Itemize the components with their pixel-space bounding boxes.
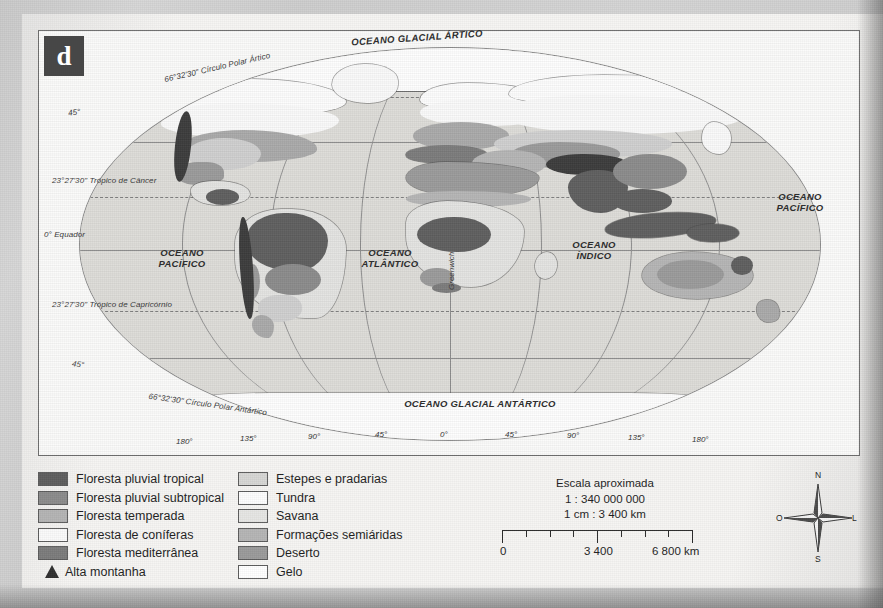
scale-bar-label: 0 xyxy=(500,545,506,557)
landmass-congo-rainforest xyxy=(417,217,491,252)
ocean-label: OCEANO PACÍFICO xyxy=(776,192,823,214)
scale-bar-tick xyxy=(573,530,574,537)
ocean-label: OCEANO GLACIAL ANTÁRTICO xyxy=(404,399,556,410)
landmass-japan xyxy=(702,122,732,153)
legend-swatch xyxy=(38,528,68,542)
scale-bar-labels: 03 4006 800 km xyxy=(500,545,696,561)
longitude-tick-label: 45° xyxy=(505,430,517,439)
ocean-label: OCEANO ÍNDICO xyxy=(572,240,616,262)
scale-ratio: 1 : 340 000 000 xyxy=(500,492,710,508)
legend-item-label: Tundra xyxy=(276,491,315,505)
legend-swatch xyxy=(238,509,268,523)
compass-south-label: S xyxy=(815,554,821,564)
legend-item: Tundra xyxy=(238,489,402,508)
scale-bar-tick xyxy=(550,530,551,537)
ocean-label: OCEANO ATLÂNTICO xyxy=(362,248,419,270)
legend-item-label: Deserto xyxy=(276,546,320,560)
graticule-label: 23°27'30" Trópico de Câncer xyxy=(52,176,156,185)
scale-bar-label: 6 800 km xyxy=(652,545,699,557)
legend-swatch xyxy=(38,472,68,486)
longitude-tick-label: 90° xyxy=(308,432,320,441)
world-globe xyxy=(79,47,821,441)
legend-item-label: Floresta pluvial tropical xyxy=(76,472,204,486)
longitude-tick-label: 0° xyxy=(440,430,448,439)
longitude-tick-label: 45° xyxy=(375,430,387,439)
legend-swatch xyxy=(238,491,268,505)
scan-shadow-bottom xyxy=(0,584,883,608)
landmass-greenland-ice xyxy=(332,64,399,103)
landmass-central-america-rainforest xyxy=(206,189,239,205)
scale-bar xyxy=(502,530,692,544)
greenwich-label: Greenwich xyxy=(447,252,456,290)
compass-rose: N S O L xyxy=(778,472,858,564)
landmass-indochina-rainforest xyxy=(613,189,672,213)
legend-swatch xyxy=(45,565,59,578)
legend-item-label: Floresta temperada xyxy=(76,509,184,523)
legend-item: Alta montanha xyxy=(38,563,224,582)
landmass-atlantic-forest xyxy=(265,264,321,295)
legend-swatch xyxy=(38,546,68,560)
compass-rose-icon xyxy=(778,472,858,564)
scan-shadow-right xyxy=(857,0,883,608)
scale-bar-tick xyxy=(692,530,693,543)
panel-letter: d xyxy=(44,36,84,76)
scale-bar-tick xyxy=(502,530,503,543)
legend-item: Floresta pluvial subtropical xyxy=(38,489,224,508)
landmass-australia-desert xyxy=(657,260,724,289)
legend-item: Deserto xyxy=(238,544,402,563)
legend-item: Floresta temperada xyxy=(38,507,224,526)
scale-equivalence: 1 cm : 3 400 km xyxy=(500,507,710,523)
legend-item-label: Floresta de coníferas xyxy=(76,528,193,542)
scale-bar-tick xyxy=(526,530,527,537)
map-frame xyxy=(38,30,860,456)
graticule-label: 23°27'30" Trópico de Capricórnio xyxy=(52,300,172,309)
scale-bar-tick xyxy=(645,530,646,537)
longitude-tick-label: 90° xyxy=(567,431,579,440)
legend-item: Formações semiáridas xyxy=(238,526,402,545)
legend-item: Floresta de coníferas xyxy=(38,526,224,545)
legend-swatch xyxy=(38,491,68,505)
legend-item: Gelo xyxy=(238,563,402,582)
legend-item: Estepes e pradarias xyxy=(238,470,402,489)
scan-background: França da Silva xyxy=(0,0,883,608)
legend-item-label: Savana xyxy=(276,509,318,523)
scale-bar-tick xyxy=(668,530,669,537)
compass-north-label: N xyxy=(815,470,821,480)
landmass-new-guinea-rainforest xyxy=(687,224,739,242)
legend-item: Floresta pluvial tropical xyxy=(38,470,224,489)
legend-item-label: Floresta mediterrânea xyxy=(76,546,198,560)
legend-item-label: Estepes e pradarias xyxy=(276,472,387,486)
scale-bar-tick xyxy=(597,530,598,543)
scale-block: Escala aproximada 1 : 340 000 000 1 cm :… xyxy=(500,476,710,561)
longitude-tick-label: 135° xyxy=(628,433,645,442)
legend-column-right: Estepes e pradariasTundraSavanaFormações… xyxy=(238,470,402,581)
legend-swatch xyxy=(38,509,68,523)
legend-item-label: Formações semiáridas xyxy=(276,528,402,542)
scale-bar-tick xyxy=(621,530,622,537)
longitude-tick-label: 180° xyxy=(692,435,709,444)
landmass-china-subtropical xyxy=(613,154,687,189)
graticule-label: 45° xyxy=(72,359,85,369)
legend-item-label: Gelo xyxy=(276,565,302,579)
graticule-label: 45° xyxy=(67,107,81,118)
legend-swatch xyxy=(238,528,268,542)
legend-item-label: Alta montanha xyxy=(65,565,146,579)
legend-column-left: Floresta pluvial tropicalFloresta pluvia… xyxy=(38,470,224,581)
legend-swatch xyxy=(238,546,268,560)
legend-swatch xyxy=(238,472,268,486)
longitude-tick-label: 180° xyxy=(176,437,193,446)
legend-item: Floresta mediterrânea xyxy=(38,544,224,563)
compass-west-label: O xyxy=(776,513,783,523)
legend-swatch xyxy=(238,565,268,579)
scale-title: Escala aproximada xyxy=(500,476,710,492)
legend-item: Savana xyxy=(238,507,402,526)
scale-bar-label: 3 400 xyxy=(584,545,613,557)
longitude-tick-label: 135° xyxy=(240,434,257,443)
legend-item-label: Floresta pluvial subtropical xyxy=(76,491,224,505)
graticule-label: 0° Equador xyxy=(44,230,85,239)
ocean-label: OCEANO PACÍFICO xyxy=(158,248,205,270)
